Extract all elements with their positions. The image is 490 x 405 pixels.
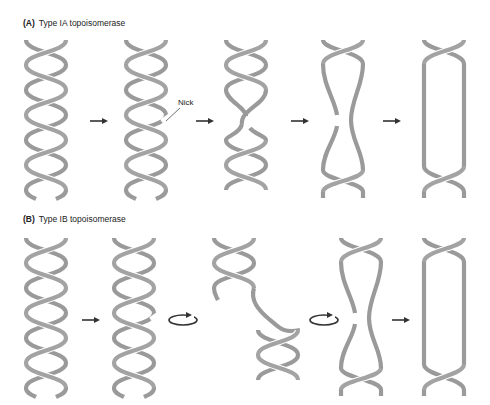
panel-a-arrow-4 — [383, 118, 401, 124]
topoisomerase-diagram — [0, 0, 490, 405]
panel-a-arrow-2 — [196, 118, 214, 124]
panel-b-step-1-helix — [26, 238, 66, 397]
panel-a-step-4-resealing — [323, 40, 363, 198]
panel-b-step-3-swivel — [214, 238, 300, 380]
panel-b-rotation-arrow-2 — [310, 312, 338, 325]
panel-a-step-1-helix — [26, 40, 66, 199]
panel-b-step-5-relaxed — [424, 238, 464, 396]
panel-a-step-5-relaxed — [424, 40, 464, 198]
panel-a-step-2-nicked-helix — [126, 40, 172, 199]
panel-a-step-3-strand-passage — [226, 40, 266, 190]
panel-b-arrow-1 — [82, 317, 100, 323]
panel-b-rotation-arrow-1 — [169, 312, 197, 325]
panel-b-step-2-nicked-helix — [114, 238, 161, 397]
panel-b-arrow-4 — [392, 317, 410, 323]
panel-b-step-4-resealing — [341, 238, 381, 396]
panel-a-arrow-1 — [90, 118, 108, 124]
panel-a-arrow-3 — [291, 118, 309, 124]
